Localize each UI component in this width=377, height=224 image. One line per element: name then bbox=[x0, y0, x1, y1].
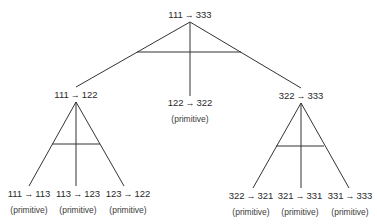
rule-label: 331→333 bbox=[328, 190, 373, 202]
primitive-tag: (primitive) bbox=[328, 207, 373, 217]
arrow-icon: → bbox=[185, 10, 194, 21]
rule-label: 111→333 bbox=[168, 9, 211, 21]
rule-label: 113→123 bbox=[56, 188, 100, 200]
primitive-tag: (primitive) bbox=[168, 114, 213, 124]
arrow-icon: → bbox=[73, 189, 82, 200]
node-122-322: 122→322 (primitive) bbox=[168, 97, 213, 124]
primitive-tag: (primitive) bbox=[278, 207, 323, 217]
node-322-333: 322→333 bbox=[279, 90, 324, 102]
node-322-321: 322→321 (primitive) bbox=[229, 190, 274, 217]
primitive-tag: (primitive) bbox=[106, 205, 151, 215]
node-123-122: 123→122 (primitive) bbox=[106, 188, 151, 215]
rule-label: 123→122 bbox=[106, 188, 151, 200]
arrow-icon: → bbox=[346, 191, 355, 202]
rule-label: 111→113 bbox=[8, 188, 51, 200]
arrow-icon: → bbox=[186, 98, 195, 109]
arrow-icon: → bbox=[296, 191, 305, 202]
node-113-123: 113→123 (primitive) bbox=[56, 188, 100, 215]
arrow-icon: → bbox=[297, 91, 306, 102]
rule-label: 322→333 bbox=[279, 90, 324, 102]
rule-label: 322→321 bbox=[229, 190, 274, 202]
arrow-icon: → bbox=[24, 189, 33, 200]
node-111-113: 111→113 (primitive) bbox=[8, 188, 51, 215]
rule-label: 321→331 bbox=[278, 190, 323, 202]
node-111-122: 111→122 bbox=[54, 89, 97, 101]
arrow-icon: → bbox=[247, 191, 256, 202]
node-331-333: 331→333 (primitive) bbox=[328, 190, 373, 217]
edge-root-left bbox=[76, 22, 190, 87]
arrow-icon: → bbox=[124, 189, 133, 200]
edge-root-right bbox=[190, 22, 301, 88]
root-node: 111→333 bbox=[168, 9, 211, 21]
primitive-tag: (primitive) bbox=[8, 205, 51, 215]
rule-label: 122→322 bbox=[168, 97, 213, 109]
primitive-tag: (primitive) bbox=[56, 205, 100, 215]
node-321-331: 321→331 (primitive) bbox=[278, 190, 323, 217]
arrow-icon: → bbox=[71, 90, 80, 101]
rule-label: 111→122 bbox=[54, 89, 97, 101]
primitive-tag: (primitive) bbox=[229, 207, 274, 217]
